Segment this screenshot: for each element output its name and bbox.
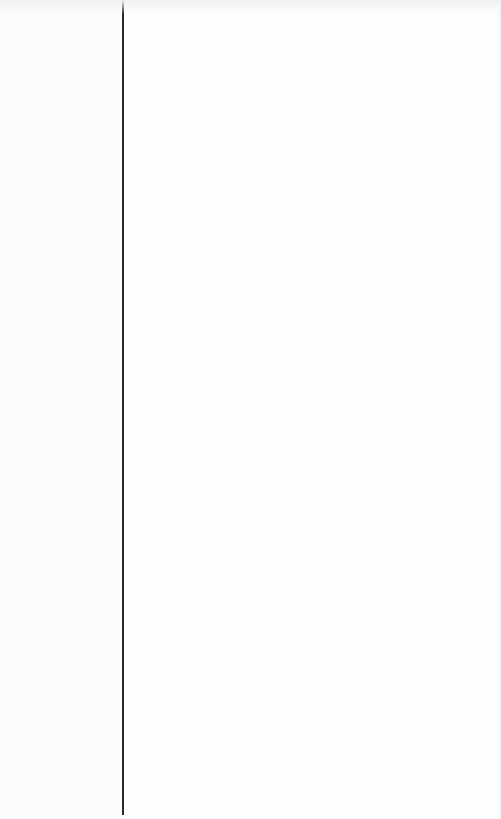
app-window	[0, 0, 501, 819]
top-edge-shade	[0, 0, 501, 14]
content-pane	[124, 0, 501, 819]
right-edge-shade	[497, 0, 501, 819]
pane-divider[interactable]	[122, 0, 124, 815]
sidebar-pane	[0, 0, 122, 819]
